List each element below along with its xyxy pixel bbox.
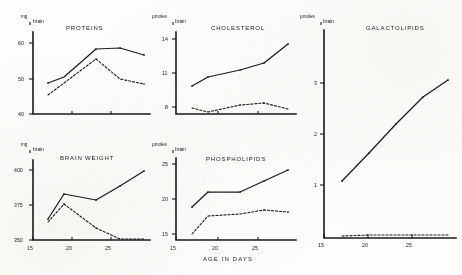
galactolipids-ytick-1: 2: [314, 131, 317, 137]
brain-weight-series-solid: [48, 171, 144, 219]
galactolipids-ytick-0: 1: [314, 182, 317, 188]
phospholipids-xtick-1: 20: [212, 245, 218, 251]
proteins-ytick-0: 40: [18, 111, 24, 117]
phospholipids-xtick-0: 15: [170, 245, 176, 251]
x-axis-label: AGE IN DAYS: [203, 256, 253, 262]
galactolipids-series-solid: [342, 80, 448, 181]
galactolipids-title: GALACTOLIPIDS: [366, 25, 425, 31]
cholesterol-ytick-1: 11: [162, 70, 167, 76]
cholesterol-ytick-2: 14: [162, 36, 168, 42]
proteins-points: [47, 47, 145, 85]
phospholipids-unit-numerator: µmoles: [152, 142, 168, 147]
brain-weight-ytick-1: 375: [14, 202, 23, 208]
galactolipids-unit-numerator: µmoles: [300, 14, 316, 19]
proteins-unit-numerator: mg: [21, 14, 28, 19]
brain-weight-title: BRAIN WEIGHT: [60, 155, 114, 161]
galactolipids-xtick-2: 25: [406, 242, 412, 248]
proteins-ytick-2: 60: [18, 40, 24, 46]
cholesterol-points: [191, 43, 289, 106]
cholesterol-ytick-0: 8: [165, 104, 168, 110]
brain-weight-xtick-2: 25: [105, 245, 111, 251]
phospholipids-ytick-1: 20: [162, 196, 168, 202]
galactolipids-ytick-2: 3: [314, 80, 317, 86]
phospholipids-title: PHOSPHOLIPIDS: [206, 156, 266, 162]
phospholipids-ytick-2: 25: [162, 161, 168, 167]
proteins-series-solid: [48, 48, 144, 83]
cholesterol-unit-numerator: µmoles: [152, 14, 168, 19]
panel-phospholipids: µmoles brain PHOSPHOLIPIDS 15 20 25 15 2…: [148, 130, 300, 270]
brain-weight-xtick-0: 15: [27, 245, 33, 251]
brain-weight-series-dashed: [48, 204, 144, 239]
figure-canvas: mg brain PROTEINS 40 50 60 µmoles: [0, 0, 462, 275]
phospholipids-series-solid: [192, 170, 288, 207]
phospholipids-unit-denominator: brain: [175, 146, 186, 152]
galactolipids-series-dashed: [342, 235, 448, 236]
galactolipids-points: [341, 79, 449, 182]
galactolipids-xtick-1: 20: [362, 242, 368, 248]
cholesterol-unit-denominator: brain: [175, 18, 186, 24]
brain-weight-unit-denominator: brain: [33, 146, 44, 152]
galactolipids-xtick-0: 15: [318, 242, 324, 248]
brain-weight-ytick-2: 400: [14, 167, 23, 173]
panel-galactolipids: µmoles brain GALACTOLIPIDS 1 2 3 15 20 2…: [296, 2, 462, 264]
brain-weight-ytick-0: 350: [14, 237, 23, 243]
phospholipids-series-dashed: [192, 210, 288, 234]
cholesterol-title: CHOLESTEROL: [211, 25, 265, 31]
proteins-ytick-1: 50: [18, 76, 24, 82]
brain-weight-unit-numerator: mg: [21, 142, 28, 147]
proteins-title: PROTEINS: [66, 25, 103, 31]
brain-weight-xtick-1: 20: [66, 245, 72, 251]
panel-brain-weight: mg brain BRAIN WEIGHT 350 375 400 15 20 …: [0, 130, 155, 270]
phospholipids-xtick-2: 25: [252, 245, 258, 251]
phospholipids-ytick-0: 15: [162, 231, 168, 237]
panel-proteins: mg brain PROTEINS 40 50 60: [0, 2, 155, 132]
cholesterol-series-solid: [192, 44, 288, 86]
proteins-unit-denominator: brain: [33, 18, 44, 24]
galactolipids-unit-denominator: brain: [323, 18, 334, 24]
panel-cholesterol: µmoles brain CHOLESTEROL 8 11 14: [148, 2, 300, 132]
